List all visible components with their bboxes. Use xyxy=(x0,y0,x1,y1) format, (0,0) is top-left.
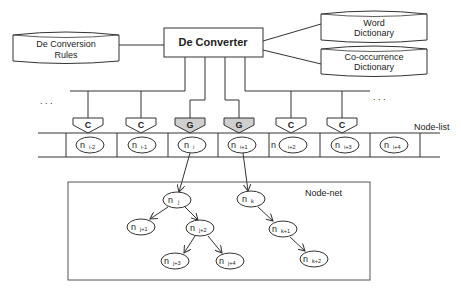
de-conversion-rules-db: De Conversion Rules xyxy=(13,32,119,64)
svg-text:i: i xyxy=(193,144,194,150)
svg-text:n: n xyxy=(80,140,85,150)
svg-text:n: n xyxy=(272,224,277,234)
svg-text:n: n xyxy=(271,140,276,150)
cooc-db-label-1: Co-occurrence xyxy=(344,52,403,62)
node-net-node-j2: n j+2 xyxy=(186,220,214,236)
node-net-node-j3: n j+3 xyxy=(161,253,189,269)
svg-text:n: n xyxy=(184,140,189,150)
svg-text:n: n xyxy=(231,140,236,150)
cooc-db-connector xyxy=(263,50,321,64)
svg-text:G: G xyxy=(186,120,193,130)
svg-text:j+2: j+2 xyxy=(198,227,207,233)
ellipsis-right: . . . xyxy=(373,92,386,102)
svg-text:n: n xyxy=(190,223,195,233)
svg-text:C: C xyxy=(288,120,295,130)
node-list-cell-5: n i+3 xyxy=(331,137,359,153)
svg-text:n: n xyxy=(132,140,137,150)
svg-text:k+1: k+1 xyxy=(281,228,290,234)
node-list-cell-3: n i+1 xyxy=(228,137,256,153)
cooccurrence-dictionary-db: Co-occurrence Dictionary xyxy=(321,46,427,77)
svg-text:n: n xyxy=(168,195,173,205)
ellipsis-left: . . . xyxy=(40,96,53,106)
svg-text:n: n xyxy=(242,194,247,204)
connector-3: G xyxy=(224,118,254,133)
svg-text:C: C xyxy=(339,120,346,130)
svg-text:i+2: i+2 xyxy=(288,144,296,150)
link-ni1-to-nk xyxy=(243,153,248,191)
link-ni-to-nj xyxy=(179,153,190,192)
connector-0: C xyxy=(73,118,103,133)
de-converter-diagram: De Conversion Rules De Converter Word Di… xyxy=(0,0,461,294)
svg-text:j+4: j+4 xyxy=(227,260,236,266)
word-db-label-1: Word xyxy=(363,18,384,28)
word-db-label-2: Dictionary xyxy=(354,28,395,38)
svg-text:i+3: i+3 xyxy=(344,144,352,150)
connector-5: C xyxy=(327,118,357,133)
node-net-node-j4: n j+4 xyxy=(216,253,244,269)
node-list-cell-2: n i xyxy=(178,137,206,153)
connector-4: C xyxy=(276,118,306,133)
word-dictionary-db: Word Dictionary xyxy=(321,11,427,43)
connector-1: C xyxy=(126,118,156,133)
svg-text:n: n xyxy=(219,256,224,266)
cooc-db-label-2: Dictionary xyxy=(354,62,395,72)
node-net-node-j1: n j+1 xyxy=(127,219,155,235)
svg-text:n: n xyxy=(335,140,340,150)
svg-text:i-2: i-2 xyxy=(89,144,95,150)
svg-text:n: n xyxy=(303,254,308,264)
node-list-cell-4: n i+2 xyxy=(271,137,307,153)
svg-text:j+1: j+1 xyxy=(139,226,148,232)
node-list-cell-1: n i-1 xyxy=(128,137,156,153)
svg-text:n: n xyxy=(131,222,136,232)
svg-text:C: C xyxy=(85,120,92,130)
svg-text:k+2: k+2 xyxy=(312,258,321,264)
svg-text:j: j xyxy=(177,199,179,205)
node-list-cell-0: n i-2 xyxy=(76,137,104,153)
svg-text:j+3: j+3 xyxy=(172,260,181,266)
svg-text:i+1: i+1 xyxy=(240,144,248,150)
converter-label: De Converter xyxy=(178,36,248,48)
svg-text:C: C xyxy=(138,120,145,130)
rules-db-label-1: De Conversion xyxy=(36,39,96,49)
word-db-connector xyxy=(263,24,321,41)
de-converter-box: De Converter xyxy=(164,28,263,57)
svg-text:n: n xyxy=(384,140,389,150)
svg-text:k: k xyxy=(251,198,254,204)
node-net-label: Node-net xyxy=(305,188,343,198)
svg-text:n: n xyxy=(164,256,169,266)
svg-text:G: G xyxy=(235,120,242,130)
node-net-node-k1: n k+1 xyxy=(269,221,297,237)
node-list-label: Node-list xyxy=(414,122,450,132)
svg-text:i-1: i-1 xyxy=(141,144,147,150)
node-net-node-j: n j xyxy=(163,192,191,208)
node-net-node-k: n k xyxy=(237,191,265,207)
node-net-node-k2: n k+2 xyxy=(300,251,328,267)
connector-2: G xyxy=(175,118,205,133)
svg-text:i+4: i+4 xyxy=(393,144,401,150)
node-list-cell-6: n i+4 xyxy=(380,137,408,153)
rules-db-label-2: Rules xyxy=(54,50,78,60)
